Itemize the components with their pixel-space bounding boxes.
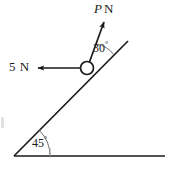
applied-force-label: PN [94,2,113,15]
angle-45-label: 45° [32,136,47,149]
angle-30-label: 30° [93,41,108,54]
diagram-canvas [0,0,170,169]
cropped-edge-artifact [1,117,4,128]
force-diagram: PN 5 N 30° 45° [0,0,170,169]
degree-sign-icon: ° [44,135,47,144]
angle-30-value: 30 [93,41,105,55]
applied-force-unit: N [104,1,113,16]
horizontal-force-label: 5 N [9,60,30,73]
degree-sign-icon: ° [105,40,108,49]
applied-force-symbol: P [94,1,102,16]
particle-circle [81,62,94,75]
angle-45-value: 45 [32,136,44,150]
